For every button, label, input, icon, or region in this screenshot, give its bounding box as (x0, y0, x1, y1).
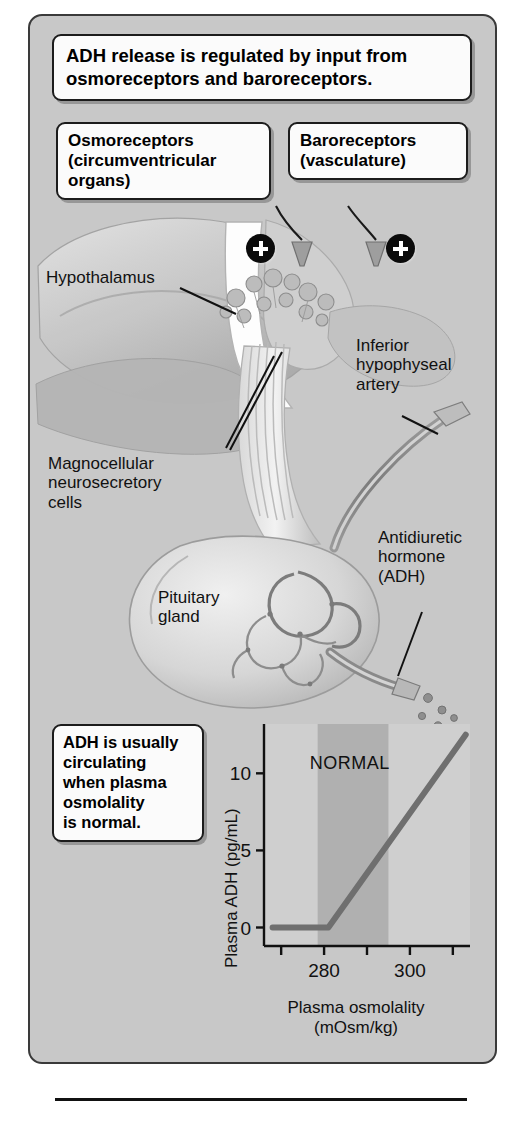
osmoreceptors-line3: organs) (68, 171, 259, 191)
magnocellular-line1: Magnocellular (48, 454, 161, 473)
iha-line2: hypophyseal (356, 355, 451, 374)
pituitary-line2: gland (158, 607, 219, 626)
svg-text:0: 0 (240, 918, 251, 939)
svg-text:5: 5 (240, 840, 251, 861)
baroreceptors-callout: Baroreceptors (vasculature) (288, 122, 468, 180)
plus-badge-right (386, 234, 415, 263)
title-callout-line2: osmoreceptors and baroreceptors. (66, 68, 458, 91)
osmoreceptors-line1: Osmoreceptors (68, 131, 259, 151)
magnocellular-line2: neurosecretory (48, 473, 161, 492)
magnocellular-line3: cells (48, 493, 161, 512)
x-axis-units: (mOsm/kg) (236, 1018, 476, 1038)
title-callout: ADH release is regulated by input from o… (52, 34, 472, 101)
chart-y-axis-label: Plasma ADH (pg/mL) (222, 808, 242, 968)
iha-line1: Inferior (356, 336, 451, 355)
chart-x-axis-label: Plasma osmolality (mOsm/kg) (236, 998, 476, 1037)
bottom-callout-line5: is normal. (63, 813, 193, 833)
svg-text:NORMAL: NORMAL (310, 753, 390, 773)
adh-line1: Antidiuretic (378, 528, 462, 547)
bottom-callout-line4: osmolality (63, 793, 193, 813)
adh-line3: (ADH) (378, 567, 462, 586)
hypothalamus-label: Hypothalamus (46, 268, 155, 287)
magnocellular-label: Magnocellular neurosecretory cells (48, 454, 161, 512)
svg-text:280: 280 (308, 960, 340, 981)
adh-osmolality-chart: Plasma ADH (pg/mL) 0510280300NORMAL Plas… (206, 718, 478, 1036)
bottom-rule (55, 1098, 467, 1101)
pituitary-gland-label: Pituitary gland (158, 588, 219, 627)
baroreceptors-line2: (vasculature) (300, 151, 456, 171)
baroreceptors-line1: Baroreceptors (300, 131, 456, 151)
title-callout-line1: ADH release is regulated by input from (66, 45, 458, 68)
hypothalamus-line1: Hypothalamus (46, 268, 155, 287)
osmoreceptors-line2: (circumventricular (68, 151, 259, 171)
bottom-callout: ADH is usually circulating when plasma o… (52, 724, 204, 842)
bottom-callout-line1: ADH is usually (63, 733, 193, 753)
inferior-hypophyseal-artery-label: Inferior hypophyseal artery (356, 336, 451, 394)
pituitary-line1: Pituitary (158, 588, 219, 607)
svg-text:300: 300 (394, 960, 426, 981)
iha-line3: artery (356, 375, 451, 394)
chart-plot-area: 0510280300NORMAL (206, 718, 478, 988)
svg-text:10: 10 (230, 763, 251, 784)
osmoreceptors-callout: Osmoreceptors (circumventricular organs) (56, 122, 271, 200)
x-axis-title: Plasma osmolality (236, 998, 476, 1018)
adh-line2: hormone (378, 547, 462, 566)
antidiuretic-hormone-label: Antidiuretic hormone (ADH) (378, 528, 462, 586)
bottom-callout-line2: circulating (63, 753, 193, 773)
plus-badge-left (246, 234, 275, 263)
bottom-callout-line3: when plasma (63, 773, 193, 793)
